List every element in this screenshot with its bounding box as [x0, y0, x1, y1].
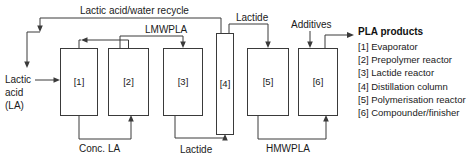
- legend-item-5: [5] Polymerisation reactor: [358, 93, 475, 106]
- unit-tag-3: [3]: [178, 76, 189, 87]
- legend: PLA products [1] Evaporator [2] Prepolym…: [358, 26, 475, 119]
- pipe-return-to-unit1: [86, 40, 129, 48]
- arrowhead-recycle-down: [37, 26, 43, 33]
- stream-label-hmwpla: HMWPLA: [266, 143, 310, 154]
- stream-label-additives: Additives: [291, 19, 332, 30]
- legend-item-2: [2] Prepolymer reactor: [358, 53, 475, 66]
- stream-label-feed-line1: Lactic: [5, 74, 31, 85]
- pipe-pla-product: [325, 35, 348, 48]
- legend-list: [1] Evaporator [2] Prepolymer reactor [3…: [358, 40, 475, 119]
- pipe-lmwpla: [120, 36, 183, 48]
- unit-tag-6: [6]: [313, 76, 324, 87]
- pipe-recycle-main: [40, 18, 221, 33]
- legend-item-1: [1] Evaporator: [358, 40, 475, 53]
- unit-tag-1: [1]: [74, 76, 85, 87]
- arrowhead-return-left: [81, 37, 88, 43]
- pipe-recycle-to-feed: [27, 32, 40, 63]
- arrowhead-additives-down: [307, 42, 313, 49]
- legend-heading: PLA products: [358, 26, 475, 38]
- arrowhead-lmwpla-down: [180, 42, 186, 49]
- unit-tag-2: [2]: [123, 76, 134, 87]
- arrowhead-pla-product-right: [347, 32, 354, 38]
- unit-tag-4: [4]: [220, 78, 231, 89]
- stream-label-conc-la: Conc. LA: [79, 143, 120, 154]
- unit-tag-5: [5]: [263, 76, 274, 87]
- legend-item-3: [3] Lactide reactor: [358, 66, 475, 79]
- arrowhead-lactide-top-down: [265, 42, 271, 49]
- stream-label-recycle: Lactic acid/water recycle: [80, 5, 189, 16]
- pipe-return-down-unit1: [79, 40, 81, 48]
- stream-label-feed-line2: acid: [5, 87, 23, 98]
- legend-item-4: [4] Distillation column: [358, 80, 475, 93]
- stream-label-lactide-bottom: Lactide: [180, 144, 213, 155]
- stream-label-lmwpla: LMWPLA: [145, 24, 188, 35]
- stream-label-feed-line3: (LA): [5, 100, 24, 111]
- arrowhead-recycle-feed-down: [24, 62, 30, 69]
- process-flow-diagram: [1] [2] [3] [4] [5] [6]: [0, 0, 475, 164]
- pipe-hmwpla: [258, 115, 326, 139]
- legend-item-6: [6] Compounder/finisher: [358, 106, 475, 119]
- pipe-conc-la: [79, 115, 131, 139]
- arrowhead-la-feed: [54, 77, 61, 83]
- stream-label-lactide-top: Lactide: [236, 12, 269, 23]
- pipe-lactide-top: [229, 24, 268, 43]
